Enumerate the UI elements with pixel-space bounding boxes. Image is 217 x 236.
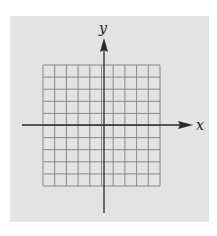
x-axis-label: x	[196, 117, 204, 133]
x-axis-arrow-icon	[178, 121, 193, 129]
coordinate-plane: x y	[0, 0, 217, 236]
y-axis-arrow-icon	[100, 38, 108, 52]
y-axis-label: y	[98, 20, 108, 36]
